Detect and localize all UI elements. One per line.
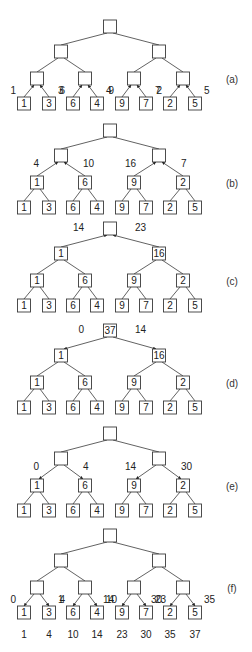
- level1-node: [153, 149, 166, 162]
- level2-node-value: 1: [34, 177, 40, 188]
- leaf-node: 2: [164, 97, 177, 110]
- leaf-node-value: 7: [143, 98, 149, 109]
- root-node: [104, 427, 117, 440]
- leaf-node-value: 6: [70, 402, 76, 413]
- edge-label: 0: [10, 594, 16, 605]
- leaf-node-value: 5: [192, 300, 198, 311]
- edge-label: 10: [83, 158, 95, 169]
- leaf-node-value: 3: [46, 202, 52, 213]
- leaf-node: 6: [67, 299, 80, 312]
- prefix-sum-value: 4: [46, 629, 52, 640]
- leaf-node-value: 3: [46, 607, 52, 618]
- edge-label: 14: [73, 222, 85, 233]
- level1-node: 1: [55, 247, 68, 260]
- edge-label: 2: [156, 85, 162, 96]
- prefix-sum-value: 35: [164, 629, 176, 640]
- leaf-node: 1: [18, 299, 31, 312]
- leaf-node: 2: [164, 201, 177, 214]
- edge-label: 6: [59, 85, 65, 96]
- level2-node: [177, 581, 190, 594]
- level1-node: [153, 554, 166, 567]
- panel-label: (d): [226, 378, 238, 389]
- leaf-node: 6: [67, 97, 80, 110]
- level2-node: [128, 581, 141, 594]
- leaf-node: 3: [43, 201, 56, 214]
- level2-node: 6: [79, 274, 92, 287]
- leaf-node-value: 4: [94, 402, 100, 413]
- level2-node-value: 6: [82, 177, 88, 188]
- leaf-node-value: 2: [167, 300, 173, 311]
- level1-node: [153, 45, 166, 58]
- level1-node: 16: [153, 349, 166, 362]
- level2-node-value: 6: [82, 377, 88, 388]
- root-node: [104, 124, 117, 137]
- level1-node: [55, 554, 68, 567]
- edge-label: 14: [135, 324, 147, 335]
- panel-label: (c): [226, 276, 238, 287]
- leaf-node: 9: [116, 201, 129, 214]
- leaf-node: 5: [189, 299, 202, 312]
- edge-label: 5: [204, 85, 210, 96]
- level1-node: [153, 452, 166, 465]
- leaf-node-value: 6: [70, 505, 76, 516]
- leaf-node: 5: [189, 97, 202, 110]
- level2-node-value: 1: [34, 275, 40, 286]
- level2-node-value: 2: [180, 275, 186, 286]
- leaf-node-value: 9: [119, 505, 125, 516]
- leaf-node-value: 2: [167, 505, 173, 516]
- leaf-node-value: 9: [119, 607, 125, 618]
- leaf-node: 3: [43, 606, 56, 619]
- leaf-node: 5: [189, 201, 202, 214]
- panel-label: (e): [226, 481, 238, 492]
- leaf-node: 6: [67, 401, 80, 414]
- level2-node: 1: [31, 176, 44, 189]
- leaf-node: 6: [67, 606, 80, 619]
- level2-node: 2: [177, 376, 190, 389]
- level2-node: 2: [177, 176, 190, 189]
- level2-node: 2: [177, 274, 190, 287]
- leaf-node: 6: [67, 504, 80, 517]
- leaf-node-value: 5: [192, 607, 198, 618]
- level2-node-value: 2: [180, 480, 186, 491]
- leaf-node: 1: [18, 97, 31, 110]
- leaf-node-value: 2: [167, 402, 173, 413]
- panel-label: (a): [226, 74, 238, 85]
- leaf-node-value: 4: [94, 607, 100, 618]
- edge-label: 4: [83, 461, 89, 472]
- leaf-node-value: 6: [70, 202, 76, 213]
- leaf-node: 7: [140, 201, 153, 214]
- leaf-node: 5: [189, 606, 202, 619]
- leaf-node: 9: [116, 504, 129, 517]
- edge-label: 16: [125, 158, 137, 169]
- prefix-sum-value: 37: [189, 629, 201, 640]
- leaf-node: 9: [116, 299, 129, 312]
- level2-node-value: 6: [82, 480, 88, 491]
- level2-node-value: 9: [131, 377, 137, 388]
- level2-node: [31, 581, 44, 594]
- prefix-sum-value: 14: [91, 629, 103, 640]
- panel-e: 169213649725041430(e): [18, 427, 239, 517]
- leaf-node-value: 2: [167, 202, 173, 213]
- level2-node: 9: [128, 376, 141, 389]
- level1-node-value: 1: [58, 248, 64, 259]
- root-node-value: 37: [104, 325, 116, 336]
- prefix-sum-value: 10: [67, 629, 79, 640]
- leaf-node: 4: [91, 299, 104, 312]
- leaf-node-value: 7: [143, 402, 149, 413]
- leaf-node-value: 2: [167, 98, 173, 109]
- leaf-node: 1: [18, 401, 31, 414]
- level2-node-value: 9: [131, 177, 137, 188]
- leaf-node-value: 6: [70, 300, 76, 311]
- edge-label: 23: [135, 222, 147, 233]
- level2-node-value: 1: [34, 377, 40, 388]
- panel-c: 1161692136497251423(c): [18, 222, 238, 312]
- leaf-node: 3: [43, 401, 56, 414]
- edge-label: 30: [181, 461, 193, 472]
- leaf-node-value: 7: [143, 300, 149, 311]
- level1-node: [55, 149, 68, 162]
- leaf-node-value: 1: [21, 402, 27, 413]
- leaf-node-value: 2: [167, 607, 173, 618]
- level2-node-value: 2: [180, 177, 186, 188]
- leaf-node: 4: [91, 97, 104, 110]
- leaf-node: 9: [116, 97, 129, 110]
